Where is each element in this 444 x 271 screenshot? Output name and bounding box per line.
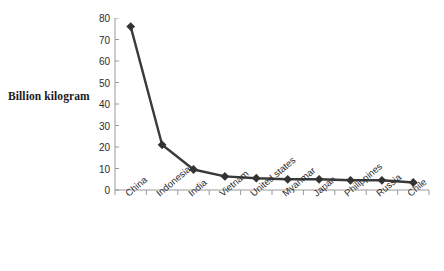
data-point-marker <box>126 22 135 31</box>
y-tick-label: 40 <box>84 100 110 110</box>
y-tick-marks <box>115 18 119 190</box>
plot-area <box>113 18 431 190</box>
data-series-line <box>131 27 414 183</box>
y-axis-tick-labels: 80 70 60 50 40 30 20 10 0 <box>80 0 110 271</box>
x-axis-tick-labels: China Indonesia India Vietnam United sta… <box>113 190 444 271</box>
y-tick-label: 20 <box>84 143 110 153</box>
figure-container: Billion kilogram 80 70 60 50 40 30 20 10… <box>0 0 444 271</box>
y-tick-label: 60 <box>84 57 110 67</box>
y-tick-label: 10 <box>84 165 110 175</box>
y-tick-label: 30 <box>84 122 110 132</box>
y-tick-label: 70 <box>84 36 110 46</box>
y-tick-label: 0 <box>84 186 110 196</box>
y-tick-label: 50 <box>84 79 110 89</box>
y-tick-label: 80 <box>84 14 110 24</box>
